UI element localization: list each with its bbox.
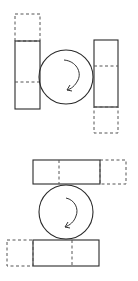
top-plate-displaced-outline <box>100 160 126 184</box>
roller-top <box>39 50 93 104</box>
left-plate-displaced-outline <box>15 14 40 41</box>
panel-horizontal-plates <box>7 160 126 266</box>
right-plate-displaced-outline <box>94 107 118 133</box>
rotation-arrow-clockwise-icon <box>65 198 77 227</box>
panel-vertical-plates <box>15 14 118 133</box>
left-plate <box>15 41 40 109</box>
bottom-plate-displaced-outline <box>7 240 33 266</box>
right-plate <box>94 40 118 107</box>
top-plate <box>33 160 100 184</box>
roller-bottom <box>39 185 93 239</box>
roller-diagram <box>0 0 138 281</box>
bottom-plate <box>33 240 99 266</box>
rotation-arrow-clockwise-icon <box>64 60 79 90</box>
